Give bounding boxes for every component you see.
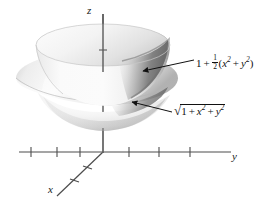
paraboloid-label: 1+12(x2+y2) (196, 54, 253, 70)
x-axis-ticks (70, 166, 92, 182)
paraboloid-close-paren: ) (250, 57, 254, 69)
hyperboloid-x-exponent: 2 (202, 103, 206, 112)
radicand: 1+x2+y2 (180, 104, 225, 117)
hyperboloid-inner-operator: + (206, 105, 216, 117)
surface-plot-figure: z y x 1+12(x2+y2) √1+x2+y2 (0, 0, 278, 206)
hyperboloid-label: √1+x2+y2 (174, 104, 225, 117)
paraboloid-inner-operator: + (231, 57, 241, 69)
x-axis-label: x (48, 184, 53, 195)
hyperboloid-y-exponent: 2 (221, 103, 225, 112)
y-axis-label: y (232, 151, 237, 162)
hyperboloid-operator: + (187, 105, 197, 117)
paraboloid-operator: + (202, 57, 212, 69)
y-axis (19, 147, 231, 157)
hyperboloid-constant: 1 (181, 105, 187, 117)
z-axis-label: z (87, 5, 91, 16)
figure-canvas (0, 0, 278, 206)
x-axis (57, 152, 103, 196)
paraboloid-constant: 1 (196, 57, 202, 69)
